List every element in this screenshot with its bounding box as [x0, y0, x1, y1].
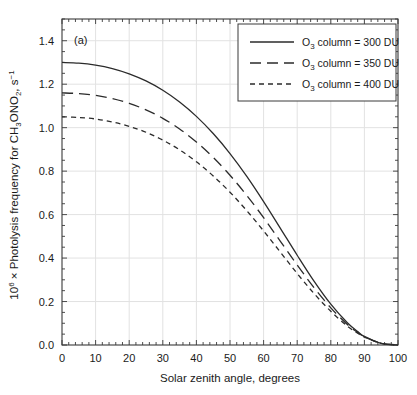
y-tick-label: 0.0 — [39, 339, 54, 351]
x-tick-label: 100 — [389, 352, 407, 364]
x-tick-label: 40 — [190, 352, 202, 364]
x-axis-title: Solar zenith angle, degrees — [160, 372, 300, 384]
x-tick-label: 20 — [123, 352, 135, 364]
panel-label: (a) — [74, 34, 87, 46]
y-tick-label: 0.4 — [39, 252, 54, 264]
figure-panel-a: 0102030405060708090100 0.00.20.40.60.81.… — [0, 0, 417, 395]
y-tick-label: 0.6 — [39, 209, 54, 221]
x-tick-label: 50 — [224, 352, 236, 364]
x-tick-label: 10 — [89, 352, 101, 364]
x-tick-label: 60 — [257, 352, 269, 364]
y-tick-label: 1.4 — [39, 35, 54, 47]
photolysis-frequency-chart: 0102030405060708090100 0.00.20.40.60.81.… — [0, 0, 417, 395]
y-tick-label: 1.2 — [39, 78, 54, 90]
y-tick-label: 0.8 — [39, 165, 54, 177]
x-tick-label: 30 — [157, 352, 169, 364]
x-tick-label: 80 — [325, 352, 337, 364]
y-tick-label: 0.2 — [39, 296, 54, 308]
y-tick-label: 1.0 — [39, 122, 54, 134]
x-tick-label: 70 — [291, 352, 303, 364]
x-tick-label: 90 — [358, 352, 370, 364]
x-tick-label: 0 — [59, 352, 65, 364]
legend: O3 column = 300 DUO3 column = 350 DUO3 c… — [238, 24, 399, 101]
